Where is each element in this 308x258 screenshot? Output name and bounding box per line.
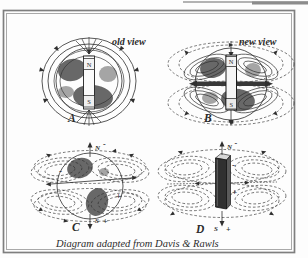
panel-b: N S new view B <box>168 36 294 126</box>
panel-d: N - S + - + D <box>157 139 287 235</box>
new-view-label: new view <box>239 36 277 47</box>
pole-label-south-d: S <box>214 225 218 233</box>
equator-axis-c <box>46 176 138 187</box>
pole-label-south-c: S <box>95 217 99 225</box>
pole-sign-north-d: - <box>235 139 238 148</box>
globe-c <box>57 153 123 219</box>
panel-a: N S old view A <box>39 36 146 126</box>
pole-label-south-a: S <box>87 98 91 105</box>
pole-label-north-c: N <box>94 144 101 152</box>
bar-magnet-d <box>216 154 231 210</box>
pole-sign-north-c: - <box>103 140 106 149</box>
figure-canvas: N S old view A <box>0 0 308 258</box>
pole-label-north-d: N <box>226 143 233 151</box>
hemisphere-sign-upper-c: - <box>59 166 62 176</box>
pole-sign-south-c: + <box>103 217 108 226</box>
pole-label-north-a: N <box>87 61 92 68</box>
old-view-label: old view <box>112 36 146 47</box>
pole-label-south-b: S <box>229 101 233 108</box>
hemisphere-sign-lower-d: + <box>232 187 237 197</box>
panel-c: N - S + - + C <box>30 140 150 233</box>
bar-magnet-a: N S <box>84 56 95 109</box>
panel-a-letter: A <box>67 112 76 124</box>
pole-labels-c: N - S + <box>88 140 109 230</box>
panel-d-letter: D <box>195 223 205 235</box>
pole-label-north-b: N <box>229 58 234 65</box>
frame-inner-border <box>7 14 292 250</box>
figure-caption: Diagram adapted from Davis & Rawls <box>55 238 219 249</box>
hemisphere-sign-lower-c: + <box>116 191 121 201</box>
panel-b-letter: B <box>203 112 212 124</box>
pole-sign-south-d: + <box>226 225 231 234</box>
scanned-diagram-page: N S old view A <box>0 0 308 258</box>
panel-c-letter: C <box>72 221 80 233</box>
hemisphere-sign-upper-d: - <box>232 160 235 170</box>
bar-magnet-b: N S <box>226 55 237 110</box>
